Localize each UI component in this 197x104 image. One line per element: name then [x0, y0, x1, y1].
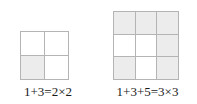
figure-root: 1+3=2×2 1+3+5=3×3: [0, 0, 197, 104]
cell-r2c2: [136, 35, 157, 57]
cell-r3c2: [136, 57, 157, 79]
cell-r2c2: [45, 56, 68, 79]
cell-r1c2: [136, 12, 157, 34]
cell-r1c3: [157, 12, 178, 34]
cell-r2c1: [114, 35, 135, 57]
cell-r1c2: [45, 32, 68, 55]
cell-r2c1: [21, 56, 44, 79]
cell-r2c3: [157, 35, 178, 57]
grid-2x2: [20, 31, 69, 80]
caption-2x2: 1+3=2×2: [8, 84, 88, 100]
grid-3x3: [113, 11, 179, 80]
caption-3x3: 1+3+5=3×3: [100, 84, 195, 100]
cell-r3c1: [114, 57, 135, 79]
cell-r1c1: [21, 32, 44, 55]
cell-r1c1: [114, 12, 135, 34]
cell-r3c3: [157, 57, 178, 79]
